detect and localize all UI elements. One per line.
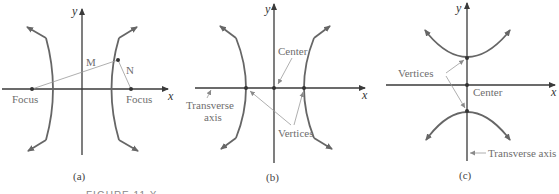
y-axis-label: y: [264, 2, 271, 16]
focus-right-point: [129, 87, 133, 91]
vertices-label: Vertices: [278, 127, 313, 139]
vertex-right-point: [302, 86, 306, 90]
panel-a: y x Focus Focus M N (a): [2, 4, 174, 183]
x-axis-label: x: [167, 89, 174, 103]
x-axis-label: x: [361, 88, 368, 102]
panel-c: y x Vertices Center Transverse axis (c): [386, 1, 557, 182]
center-point: [465, 83, 469, 87]
panel-b: y x Center Transverse axis Vertices (b): [186, 2, 368, 184]
center-label: Center: [473, 86, 503, 98]
label-n: N: [126, 64, 134, 76]
panel-c-caption: (c): [459, 169, 472, 182]
panel-a-caption: (a): [73, 170, 86, 183]
panel-b-caption: (b): [266, 171, 279, 184]
vertex-upper-point: [465, 56, 469, 60]
vertex-left-point: [244, 86, 248, 90]
transverse-axis-pointer: [207, 90, 211, 98]
vertices-pointer-left: [250, 91, 291, 125]
center-point: [272, 86, 276, 90]
x-axis-label: x: [550, 85, 557, 99]
label-m: M: [86, 56, 96, 68]
transverse-axis-label-line2: axis: [204, 111, 222, 123]
transverse-axis-label: Transverse axis: [488, 147, 556, 159]
y-axis-label: y: [455, 1, 462, 15]
vertices-pointer-lower: [446, 76, 465, 108]
focus-left-label: Focus: [12, 93, 38, 105]
focus-right-label: Focus: [126, 93, 152, 105]
hyperbola-lower-branch: [429, 112, 507, 136]
point-on-hyperbola: [116, 58, 120, 62]
y-axis-label: y: [71, 4, 78, 18]
vertices-label: Vertices: [398, 67, 433, 79]
vertices-pointer-upper: [446, 60, 464, 73]
distance-line-m: [32, 60, 118, 89]
figure-caption-clipped: FIGURE 11.X: [86, 190, 157, 194]
focus-left-point: [30, 87, 34, 91]
vertices-pointer-right: [294, 92, 303, 125]
center-pointer: [278, 58, 292, 84]
center-label: Center: [278, 45, 308, 57]
vertex-lower-point: [465, 109, 469, 113]
hyperbola-figure: y x Focus Focus M N (a) y x Center: [0, 0, 559, 194]
transverse-axis-label-line1: Transverse: [186, 99, 234, 111]
